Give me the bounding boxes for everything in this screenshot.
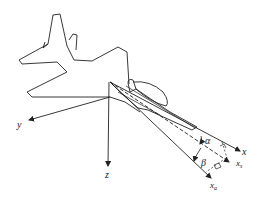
beta-label: β bbox=[200, 157, 206, 168]
z-axis bbox=[108, 82, 109, 166]
xa-label-sub: a bbox=[214, 185, 217, 191]
xa-label: xa bbox=[209, 180, 217, 191]
alpha-label: α bbox=[205, 135, 211, 146]
xs-label-sub: s bbox=[240, 163, 243, 169]
beta-arc bbox=[194, 148, 201, 161]
y-axis bbox=[29, 97, 110, 120]
aircraft-outline bbox=[19, 14, 197, 130]
y-label: y bbox=[16, 119, 22, 130]
xs-axis bbox=[110, 82, 229, 162]
projection-lines bbox=[206, 142, 227, 172]
xs-label: xs bbox=[235, 158, 243, 169]
body-axes bbox=[29, 82, 240, 178]
xa-axis bbox=[110, 82, 211, 178]
x-label: x bbox=[241, 146, 247, 157]
aircraft-axes-diagram: y z x xs xa α β bbox=[0, 0, 263, 198]
x-axis bbox=[110, 82, 240, 151]
z-label: z bbox=[104, 169, 109, 180]
